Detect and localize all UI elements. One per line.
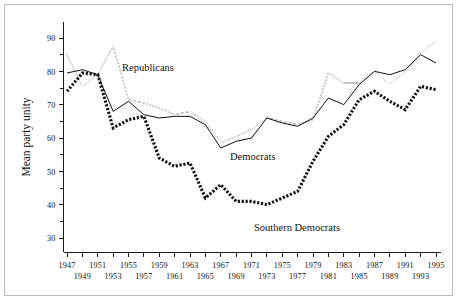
x-tick-label: 1981 (320, 272, 337, 281)
x-tick-label: 1971 (243, 261, 260, 270)
x-tick-label: 1967 (212, 261, 229, 270)
x-tick-label: 1993 (412, 272, 429, 281)
x-tick-label: 1961 (166, 272, 183, 281)
x-tick-label: 1985 (351, 272, 368, 281)
x-tick-label: 1963 (181, 261, 198, 270)
x-tick-label: 1983 (335, 261, 352, 270)
series-line-dotted (67, 73, 436, 205)
x-tick-label: 1949 (74, 272, 91, 281)
chart-figure: 30405060708090Mean party unity1947194919… (0, 0, 459, 302)
y-tick-label: 70 (47, 101, 55, 110)
x-tick-label: 1979 (304, 261, 321, 270)
y-tick-label: 60 (47, 134, 55, 143)
x-tick-label: 1991 (397, 261, 414, 270)
x-tick-label: 1995 (427, 261, 444, 270)
series-line-inner (67, 41, 436, 143)
x-tick-label: 1969 (228, 272, 245, 281)
series-republicans (67, 41, 436, 143)
y-tick-label: 90 (47, 34, 55, 43)
y-tick-label: 80 (47, 68, 55, 77)
y-tick-label: 40 (47, 201, 55, 210)
series-southern-democrats (67, 73, 436, 205)
series-annotation-southern-democrats: Southern Democrats (254, 222, 340, 233)
x-tick-label: 1975 (274, 261, 291, 270)
y-axis-title: Mean party unity (20, 97, 33, 176)
x-tick-label: 1959 (151, 261, 168, 270)
series-line-outer (67, 41, 436, 143)
series-annotation-democrats: Democrats (230, 151, 275, 162)
x-tick-label: 1965 (197, 272, 214, 281)
x-tick-label: 1973 (258, 272, 275, 281)
x-tick-label: 1977 (289, 272, 306, 281)
y-tick-label: 30 (47, 234, 55, 243)
x-tick-label: 1951 (89, 261, 106, 270)
x-tick-label: 1987 (366, 261, 383, 270)
series-annotation-republicans: Republicans (122, 62, 174, 73)
x-tick-label: 1955 (120, 261, 137, 270)
line-chart-plot: 30405060708090Mean party unity1947194919… (0, 0, 459, 302)
x-tick-label: 1953 (105, 272, 122, 281)
x-tick-label: 1957 (135, 272, 152, 281)
x-tick-label: 1989 (381, 272, 398, 281)
x-tick-label: 1947 (58, 261, 75, 270)
y-tick-label: 50 (47, 168, 55, 177)
